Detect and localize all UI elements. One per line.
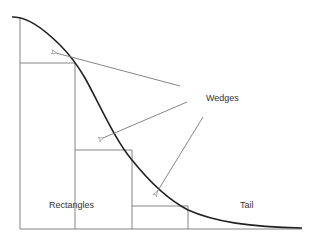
rectangles-label: Rectangles — [49, 200, 95, 210]
wedge-arrow-2 — [103, 102, 187, 138]
ziggurat-diagram: Wedges Rectangles Tail — [0, 0, 323, 243]
wedge-pointers — [56, 53, 203, 192]
wedges-label: Wedges — [206, 93, 239, 103]
tail-label: Tail — [240, 200, 254, 210]
wedge-arrow-3 — [157, 117, 203, 192]
rectangles-grid — [20, 17, 302, 229]
density-curve — [12, 17, 302, 228]
